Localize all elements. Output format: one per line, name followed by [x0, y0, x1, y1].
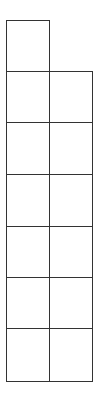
grid-cell [6, 226, 50, 278]
grid-cell [6, 174, 50, 227]
grid-cell [49, 226, 94, 278]
grid-cell [6, 20, 50, 72]
grid-cell [6, 71, 50, 123]
grid-cell [6, 277, 50, 329]
grid-cell [49, 277, 94, 329]
grid-cell [49, 174, 94, 227]
grid-cell [49, 328, 94, 382]
grid-cell [49, 122, 94, 175]
grid-cell [6, 328, 50, 382]
grid-cell [49, 71, 94, 123]
grid-cell [6, 122, 50, 175]
